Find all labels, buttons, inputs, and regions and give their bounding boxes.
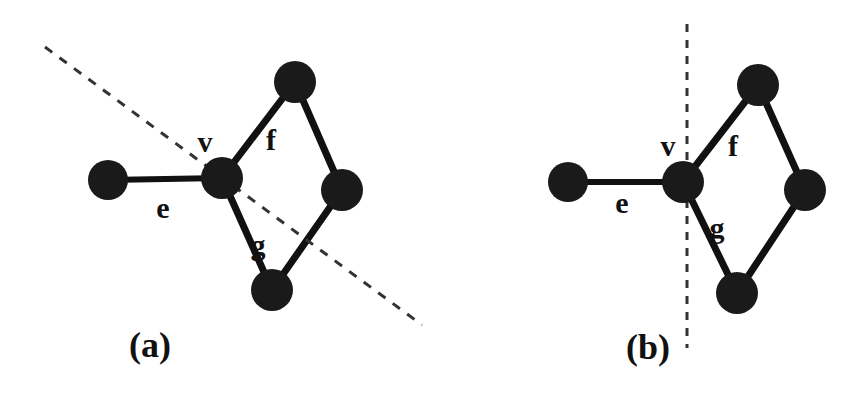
label-e: e	[156, 191, 169, 224]
label-v: v	[661, 129, 676, 162]
label-f: f	[728, 129, 739, 162]
panel-caption-b: (b)	[626, 327, 670, 367]
label-e: e	[615, 186, 628, 219]
graph-node-bottom-node	[251, 269, 293, 311]
label-f: f	[266, 123, 277, 156]
graph-node-bottom-node	[716, 272, 758, 314]
graph-node-left-endpoint	[88, 160, 128, 200]
graph-node-top-node	[274, 61, 316, 103]
graph-node-top-node	[737, 64, 779, 106]
panel-b: vefg(b)	[548, 24, 826, 367]
graph-node-left-endpoint	[548, 162, 588, 202]
graph-node-vertex-v	[662, 161, 704, 203]
graph-node-right-node	[784, 169, 826, 211]
label-g: g	[251, 228, 266, 261]
panel-caption-a: (a)	[129, 325, 171, 365]
figure-root: vefg(a)vefg(b)	[0, 0, 861, 404]
graph-node-vertex-v	[201, 157, 243, 199]
label-v: v	[198, 125, 213, 158]
label-g: g	[710, 211, 725, 244]
panel-a: vefg(a)	[45, 47, 422, 365]
graph-figure-canvas: vefg(a)vefg(b)	[0, 0, 861, 404]
graph-node-right-node	[321, 169, 363, 211]
